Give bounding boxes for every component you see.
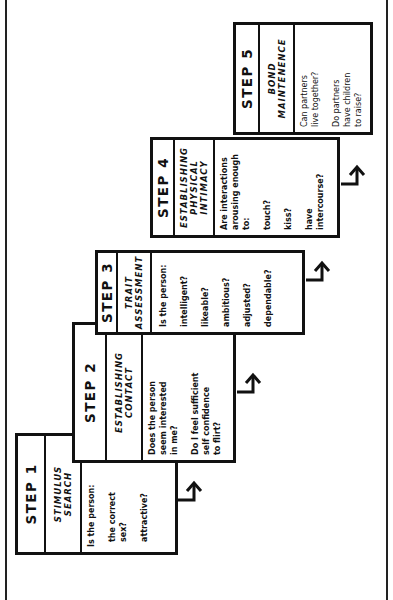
step-4-body: Are interactions arousing enough to: tou…	[215, 140, 337, 235]
step-5-body: Can partners live together? Do partners …	[295, 25, 370, 132]
step-4-title: ESTABLISHING PHYSICAL INTIMACY	[175, 140, 215, 235]
frame-right-border	[386, 0, 388, 600]
arrow-icon	[304, 258, 334, 288]
step-4-box: STEP 4 ESTABLISHING PHYSICAL INTIMACY Ar…	[150, 137, 340, 238]
step-2: STEP 2 ESTABLISHING CONTACT Does the per…	[72, 322, 236, 463]
step-3-option: ambitious?	[221, 257, 232, 327]
step-3-option: likeable?	[200, 257, 211, 327]
step-5-option: Do partners have children to raise?	[331, 29, 364, 127]
step-4-label: STEP 4	[153, 140, 175, 235]
step-3-box: STEP 3 TRAIT ASSESSMENT Is the person: i…	[95, 250, 305, 335]
arrow-icon	[235, 370, 265, 400]
step-1-label: STEP 1	[18, 436, 46, 552]
step-3-label: STEP 3	[98, 253, 118, 332]
step-3-body: Is the person: intelligent? likeable? am…	[152, 253, 302, 332]
step-3: STEP 3 TRAIT ASSESSMENT Is the person: i…	[95, 250, 305, 335]
arrow-icon	[339, 162, 369, 192]
step-5-title: BOND MAINTENENCE	[260, 25, 295, 132]
step-2-label: STEP 2	[75, 325, 107, 460]
step-4-question: Are interactions arousing enough to:	[219, 144, 252, 230]
step-5-label: STEP 5	[236, 25, 260, 132]
step-3-title: TRAIT ASSESSMENT	[118, 253, 152, 332]
step-3-option: intelligent?	[179, 257, 190, 327]
step-4-option: kiss?	[283, 144, 294, 230]
step-4: STEP 4 ESTABLISHING PHYSICAL INTIMACY Ar…	[150, 137, 340, 238]
frame-left-border	[5, 0, 7, 600]
step-3-question: Is the person:	[158, 257, 169, 327]
step-4-option: touch?	[262, 144, 273, 230]
step-2-title: ESTABLISHING CONTACT	[107, 325, 143, 460]
step-2-question: Does the person seem interested in me?	[147, 329, 180, 455]
step-5-question: Can partners live together?	[299, 29, 321, 127]
step-4-option: have intercourse?	[304, 144, 326, 230]
step-3-option: dependable?	[263, 257, 274, 327]
step-2-option: Do I feel sufficient self confidence to …	[190, 329, 223, 455]
step-5: STEP 5 BOND MAINTENENCE Can partners liv…	[233, 22, 373, 135]
step-2-body: Does the person seem interested in me? D…	[143, 325, 233, 460]
step-2-box: STEP 2 ESTABLISHING CONTACT Does the per…	[72, 322, 236, 463]
arrow-icon	[176, 478, 206, 508]
step-5-box: STEP 5 BOND MAINTENENCE Can partners liv…	[233, 22, 373, 135]
step-3-option: adjusted?	[242, 257, 253, 327]
